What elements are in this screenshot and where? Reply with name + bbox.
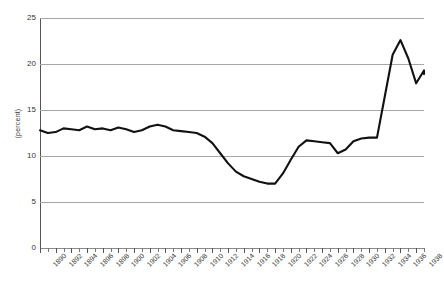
y-tick-label-20: 20: [27, 60, 36, 68]
x-tick-label-1900: 1900: [130, 252, 146, 268]
x-tick-label-1906: 1906: [177, 252, 193, 268]
gridline-0: [40, 248, 424, 249]
x-tick-label-1898: 1898: [114, 252, 130, 268]
x-tick-label-1914: 1914: [240, 252, 256, 268]
x-tick-label-1934: 1934: [396, 252, 412, 268]
x-tick-label-1930: 1930: [365, 252, 381, 268]
x-tick-label-1938: 1938: [428, 252, 444, 268]
series-line: [40, 18, 424, 248]
x-tick-label-1904: 1904: [161, 252, 177, 268]
x-tick-label-1916: 1916: [255, 252, 271, 268]
x-tick-label-1910: 1910: [208, 252, 224, 268]
x-tick-label-1932: 1932: [381, 252, 397, 268]
x-tick-label-1936: 1936: [412, 252, 428, 268]
y-tick-label-5: 5: [32, 198, 36, 206]
x-tick-label-1890: 1890: [52, 252, 68, 268]
x-axis-tick-labels: 1890189218941896189819001902190419061908…: [40, 252, 436, 292]
x-tick-label-1920: 1920: [287, 252, 303, 268]
x-tick-label-1902: 1902: [146, 252, 162, 268]
y-axis-tick-labels: 0510152025: [0, 0, 40, 300]
x-tick-label-1912: 1912: [224, 252, 240, 268]
plot-area: [40, 18, 424, 248]
x-tick-label-1922: 1922: [302, 252, 318, 268]
y-tick-label-25: 25: [27, 14, 36, 22]
x-tick-label-1924: 1924: [318, 252, 334, 268]
x-tick-label-1896: 1896: [99, 252, 115, 268]
x-tick-label-1892: 1892: [67, 252, 83, 268]
x-tick-label-1928: 1928: [349, 252, 365, 268]
y-tick-label-10: 10: [27, 152, 36, 160]
x-tick-label-1918: 1918: [271, 252, 287, 268]
x-tick-label-1894: 1894: [83, 252, 99, 268]
y-tick-label-15: 15: [27, 106, 36, 114]
figure-caption: [8, 292, 428, 300]
y-tick-label-0: 0: [32, 244, 36, 252]
x-tick-label-1926: 1926: [334, 252, 350, 268]
x-tick-label-1908: 1908: [193, 252, 209, 268]
